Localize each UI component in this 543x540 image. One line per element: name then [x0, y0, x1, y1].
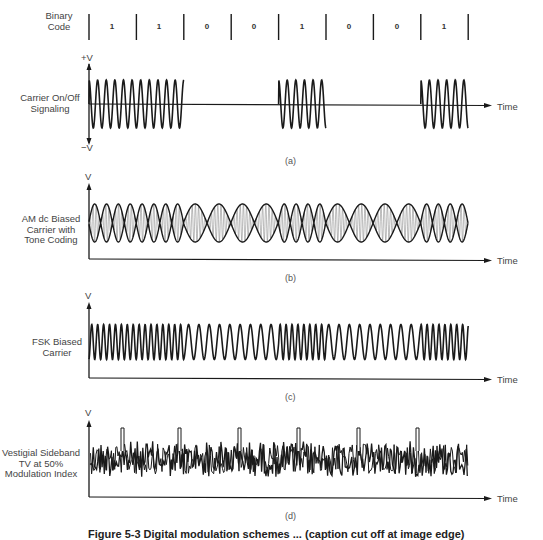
panel-b-time-axis-arrow	[484, 258, 492, 263]
panel-a-title: Carrier On/Off Signaling	[14, 93, 86, 114]
panel-a-time-axis-arrow	[484, 103, 492, 108]
panel-c-time-axis	[89, 378, 488, 380]
panel-d-sync-pulse	[121, 428, 124, 451]
panel-c-tag: (c)	[285, 392, 296, 402]
panel-d-title-line3: Modulation Index	[0, 469, 82, 480]
panel-d-sync-pulse	[178, 428, 181, 451]
panel-c-title: FSK Biased Carrier	[28, 337, 86, 358]
panel-a-title-line2: Signaling	[14, 104, 86, 115]
panel-a-time-axis	[89, 104, 488, 106]
panel-a-y-axis-arrow-up	[87, 63, 92, 70]
panel-d-y-axis-arrow	[87, 420, 92, 427]
panel-b-y-axis-arrow	[87, 183, 92, 190]
panel-d-v-label: V	[85, 407, 91, 418]
panel-d-title: Vestigial Sideband TV at 50% Modulation …	[0, 448, 82, 480]
panel-a-time-label: Time	[497, 101, 518, 112]
panel-c-v-label: V	[85, 290, 91, 301]
panel-d-sync-pulse	[238, 428, 241, 451]
panel-c-fsk-waveform	[89, 325, 468, 360]
panel-b-title-line1: AM dc Biased	[16, 214, 86, 225]
panel-a-title-line1: Carrier On/Off	[14, 93, 86, 104]
bit-4: 0	[244, 22, 264, 31]
panel-d-title-line1: Vestigial Sideband	[0, 448, 82, 459]
panel-a-minus-v-label: −V	[81, 142, 93, 153]
binary-label-line2: Code	[34, 22, 84, 33]
panel-c-title-line1: FSK Biased	[28, 337, 86, 348]
panel-c-y-axis-arrow	[87, 302, 92, 309]
panel-b-envelope-upper	[89, 204, 468, 223]
panel-d-sync-pulse	[416, 428, 419, 451]
panel-d-time-axis-arrow	[484, 496, 492, 501]
bit-7: 0	[387, 22, 407, 31]
panel-a-tag: (a)	[285, 156, 296, 166]
panel-d-time-label: Time	[497, 493, 518, 504]
panel-d-tag: (d)	[285, 511, 296, 521]
figure-caption: Figure 5-3 Digital modulation schemes ..…	[88, 528, 465, 540]
panel-b-title-line3: Tone Coding	[16, 235, 86, 246]
panel-c-title-line2: Carrier	[28, 348, 86, 359]
panel-d-time-axis	[89, 497, 488, 499]
panel-b-title: AM dc Biased Carrier with Tone Coding	[16, 214, 86, 246]
panel-b-v-label: V	[85, 171, 91, 182]
bit-2: 1	[149, 22, 169, 31]
panel-c-time-label: Time	[497, 374, 518, 385]
bit-1: 1	[102, 22, 122, 31]
panel-d-sync-pulse	[357, 428, 360, 451]
panel-b-time-label: Time	[497, 255, 518, 266]
panel-b-tag: (b)	[285, 273, 296, 283]
bit-3: 0	[197, 22, 217, 31]
binary-code-label: Binary Code	[34, 11, 84, 32]
panel-a-plus-v-label: +V	[81, 52, 93, 63]
bit-8: 1	[434, 22, 454, 31]
panel-c-time-axis-arrow	[484, 377, 492, 382]
binary-label-line1: Binary	[34, 11, 84, 22]
panel-b-time-axis	[89, 259, 488, 261]
bit-5: 1	[292, 22, 312, 31]
bit-6: 0	[339, 22, 359, 31]
panel-d-sync-pulse	[297, 428, 300, 451]
